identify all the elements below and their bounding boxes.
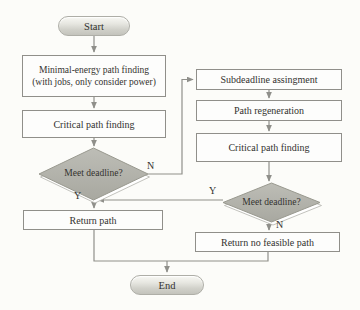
minimal-energy-step: Minimal-energy path finding (with jobs, … [22, 55, 166, 97]
return-path-label: Return path [70, 214, 117, 227]
critical-path-finding-step-2: Critical path finding [196, 133, 342, 162]
return-no-feasible-label: Return no feasible path [221, 236, 314, 249]
critical-path-finding-step-1: Critical path finding [22, 110, 166, 138]
return-no-feasible-step: Return no feasible path [195, 232, 340, 252]
start-terminator: Start [58, 16, 130, 36]
decision2-yes-branch-label: Y [209, 186, 216, 196]
minimal-energy-line2: (with jobs, only consider power) [32, 76, 156, 89]
decision1-label: Meet deadline? [53, 148, 134, 200]
decision1-no-branch-label: N [147, 161, 154, 171]
return-path-step: Return path [23, 210, 163, 230]
subdeadline-assignment-step: Subdeadline assingment [196, 69, 342, 90]
decision2-no-branch-label: N [276, 220, 283, 230]
decision1-yes-branch-label: Y [74, 191, 81, 201]
critical-path-1-label: Critical path finding [53, 118, 134, 131]
critical-path-2-label: Critical path finding [228, 141, 309, 154]
minimal-energy-line1: Minimal-energy path finding [39, 64, 149, 77]
flowchart-diagram: Start Minimal-energy path finding (with … [0, 0, 360, 310]
end-terminator: End [130, 275, 204, 295]
end-label: End [159, 280, 176, 291]
path-regeneration-step: Path regeneration [196, 100, 342, 121]
decision2-label: Meet deadline? [231, 183, 312, 222]
subdeadline-label: Subdeadline assingment [221, 73, 318, 86]
start-label: Start [84, 21, 104, 32]
path-regeneration-label: Path regeneration [234, 104, 304, 117]
